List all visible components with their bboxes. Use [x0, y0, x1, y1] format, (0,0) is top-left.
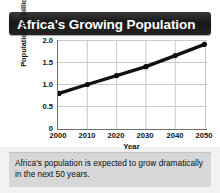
caption-text: Africa's population is expected to grow … — [15, 158, 205, 180]
x-axis-title: Year — [57, 142, 206, 151]
population-chart-figure: Africa's Growing Population Population (… — [0, 0, 220, 193]
x-tick-label-2040: 2040 — [160, 131, 190, 141]
y-tick-label-0-5: 0.5 — [35, 103, 53, 111]
y-tick-label-2-0: 2.0 — [35, 37, 53, 45]
x-tick-label-2000: 2000 — [43, 131, 73, 141]
y-axis-title: Population (in billions) — [18, 0, 30, 75]
chart-area: Population (in billions) 2.0 1.5 1.0 0.5… — [9, 37, 211, 147]
caption-panel: Africa's population is expected to grow … — [9, 152, 211, 187]
x-tick-label-2050: 2050 — [189, 131, 219, 141]
figure-title-bar: Africa's Growing Population — [9, 12, 211, 35]
y-tick-label-1-5: 1.5 — [35, 59, 53, 67]
plot-svg — [58, 40, 207, 129]
population-series-line — [59, 44, 205, 93]
x-tick-label-2010: 2010 — [72, 131, 102, 141]
x-tick-label-2020: 2020 — [101, 131, 131, 141]
figure-title: Africa's Growing Population — [17, 16, 195, 31]
x-tick-label-2030: 2030 — [130, 131, 160, 141]
x-axis-tick-labels: 2000 2010 2020 2030 2040 2050 — [35, 131, 220, 142]
y-tick-label-1-0: 1.0 — [35, 81, 53, 89]
plot-frame — [57, 40, 207, 130]
